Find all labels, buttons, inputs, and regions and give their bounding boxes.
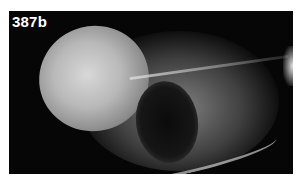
edge-highlight	[283, 46, 293, 86]
figure-label: 387b	[12, 13, 47, 30]
radiograph-image: 387b	[9, 11, 293, 174]
